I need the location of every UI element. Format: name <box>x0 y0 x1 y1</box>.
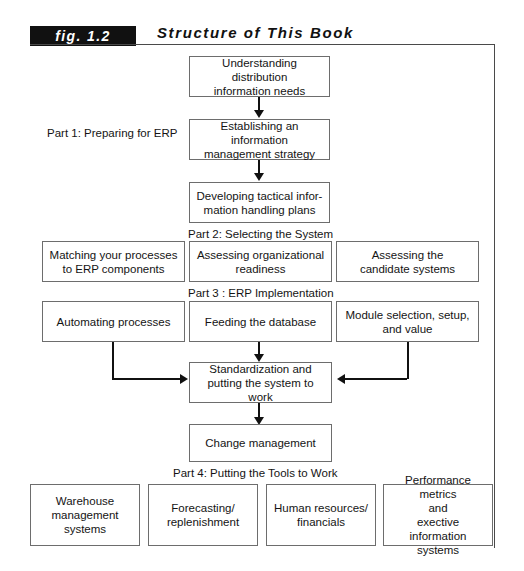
box-line: and value <box>383 323 433 335</box>
box-matching-processes: Matching your processes to ERP component… <box>42 241 185 282</box>
box-line: Standardization and <box>209 363 311 375</box>
box-line: Change management <box>205 436 316 450</box>
part-2-label: Part 2: Selecting the System <box>188 228 333 240</box>
box-standardization: Standardization and putting the system t… <box>189 362 332 403</box>
box-line: Assessing the <box>372 249 444 261</box>
box-line: Understanding distribution <box>222 57 297 83</box>
box-line: management strategy <box>204 148 315 160</box>
box-line: to ERP components <box>62 263 164 275</box>
frame-top-rule <box>30 44 495 45</box>
arrow-strategy-to-plans <box>254 173 264 181</box>
box-line: Forecasting/ <box>171 502 234 514</box>
box-warehouse-management: Warehouse management systems <box>30 484 140 546</box>
box-line: Human resources/ <box>274 502 368 514</box>
box-understanding-needs: Understanding distribution information n… <box>189 56 330 97</box>
box-forecasting-replenishment: Forecasting/ replenishment <box>148 484 258 546</box>
figure-number-tag: fig. 1.2 <box>30 26 136 46</box>
frame-right-rule <box>494 44 495 548</box>
box-automating-processes: Automating processes <box>42 301 185 342</box>
box-line: Module selection, setup, <box>345 309 469 321</box>
part-1-label: Part 1: Preparing for ERP <box>47 127 177 139</box>
box-line: putting the system to work <box>207 377 313 403</box>
box-line: Matching your processes <box>50 249 178 261</box>
box-line: management systems <box>51 509 118 535</box>
connector-automating-across <box>112 378 180 380</box>
box-assessing-candidates: Assessing the candidate systems <box>336 241 479 282</box>
arrow-automating-to-standardization <box>180 374 188 384</box>
box-developing-plans: Developing tactical infor- mation handli… <box>189 182 330 223</box>
box-feeding-database: Feeding the database <box>189 301 332 342</box>
box-line: Feeding the database <box>205 315 316 329</box>
box-line: exective information <box>410 516 467 542</box>
box-establishing-strategy: Establishing an information management s… <box>189 119 330 160</box>
box-line: candidate systems <box>360 263 455 275</box>
figure-title: Structure of This Book <box>157 24 354 41</box>
connector-module-across <box>345 378 407 380</box>
box-change-management: Change management <box>189 424 332 462</box>
box-line: systems <box>417 544 459 556</box>
figure-page: fig. 1.2 Structure of This Book Part 1: … <box>0 0 524 571</box>
arrow-module-to-standardization <box>337 374 345 384</box>
box-human-resources-financials: Human resources/ financials <box>266 484 376 546</box>
connector-module-down <box>407 342 409 379</box>
box-line: Assessing organizational <box>197 249 324 261</box>
box-line: and <box>428 502 447 514</box>
box-line: information needs <box>214 85 305 97</box>
connector-automating-down <box>112 342 114 379</box>
box-line: Establishing an information <box>221 120 299 146</box>
box-line: financials <box>297 516 345 528</box>
box-assessing-readiness: Assessing organizational readiness <box>189 241 332 282</box>
box-module-selection: Module selection, setup, and value <box>336 301 479 342</box>
part-4-label: Part 4: Putting the Tools to Work <box>173 467 338 479</box>
box-line: mation handling plans <box>204 204 316 216</box>
box-performance-metrics: Performance metrics and exective informa… <box>383 484 493 546</box>
part-3-label: Part 3 : ERP Implementation <box>188 287 334 299</box>
box-line: Warehouse <box>56 495 114 507</box>
box-line: Performance metrics <box>405 474 471 500</box>
box-line: Developing tactical infor- <box>197 190 323 202</box>
box-line: replenishment <box>167 516 239 528</box>
box-line: readiness <box>236 263 286 275</box>
arrow-needs-to-strategy <box>254 110 264 118</box>
box-line: Automating processes <box>57 315 171 329</box>
